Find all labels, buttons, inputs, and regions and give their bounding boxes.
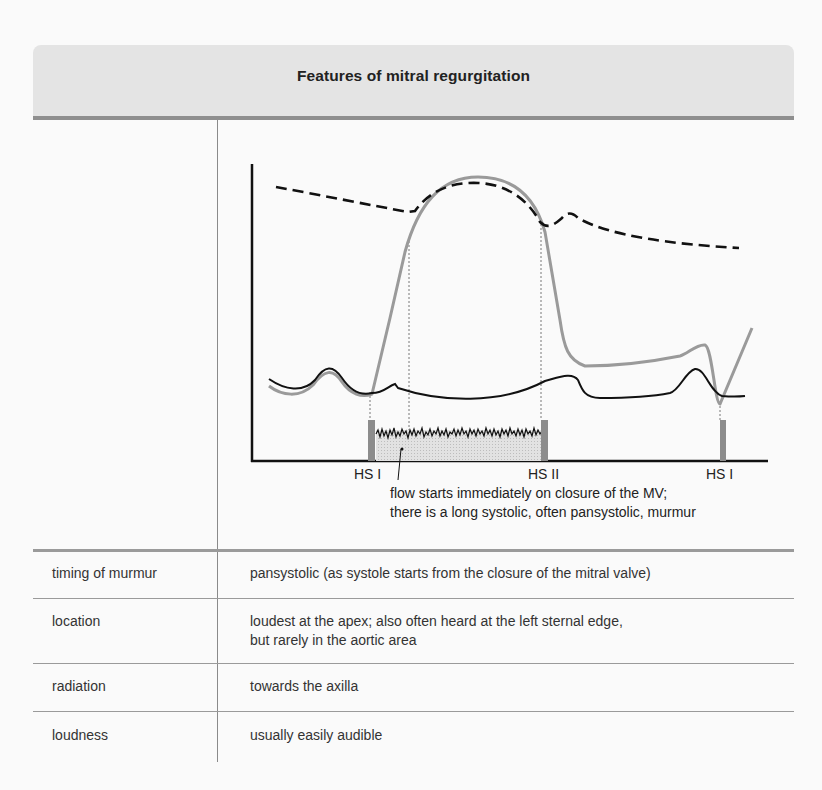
row-label-timing: timing of murmur [52,565,157,581]
row-value-timing: pansystolic (as systole starts from the … [250,564,651,583]
row-label-radiation: radiation [52,678,106,694]
diagram-caption: flow starts immediately on closure of th… [390,484,696,522]
table-header: Features of mitral regurgitation [33,45,794,117]
hs1-end-bar [720,420,726,461]
atrial-pressure-curve [269,368,745,398]
tick-label-hs1: HS I [354,466,381,482]
row-value-location: loudest at the apex; also often heard at… [250,612,623,650]
row-value-loudness: usually easily audible [250,726,382,745]
caption-line-2: there is a long systolic, often pansysto… [390,503,696,522]
row-divider [33,663,794,664]
row-divider [33,711,794,712]
value-line: usually easily audible [250,726,382,745]
tick-label-hs2: HS II [528,466,559,482]
row-divider [33,549,794,552]
value-line: but rarely in the aortic area [250,631,623,650]
row-label-loudness: loudness [52,727,108,743]
hs2-bar [541,420,548,461]
row-divider [33,598,794,599]
row-label-location: location [52,613,100,629]
hs1-bar [368,420,375,461]
table-title: Features of mitral regurgitation [33,67,794,85]
value-line: towards the axilla [250,677,358,696]
caption-line-1: flow starts immediately on closure of th… [390,484,696,503]
value-line: loudest at the apex; also often heard at… [250,612,623,631]
lv-pressure-curve [269,177,752,404]
aortic-pressure-curve [276,183,739,248]
tick-label-hs1-end: HS I [706,466,733,482]
value-line: pansystolic (as systole starts from the … [250,564,651,583]
row-value-radiation: towards the axilla [250,677,358,696]
